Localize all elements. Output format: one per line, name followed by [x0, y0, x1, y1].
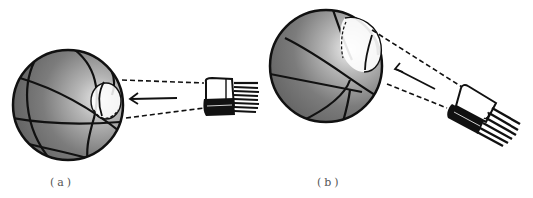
panel-label-b: (b): [317, 176, 342, 189]
beam-edges: [372, 30, 462, 108]
panel-b: [270, 10, 520, 146]
panel-a: [12, 50, 259, 165]
flashlight-basketball-diagram: [0, 0, 533, 198]
flashlight-icon: [203, 78, 259, 116]
flashlight-icon: [447, 85, 520, 146]
light-spot: [91, 82, 121, 119]
arrow-left-icon: [130, 93, 177, 104]
panel-label-a: (a): [50, 176, 74, 189]
